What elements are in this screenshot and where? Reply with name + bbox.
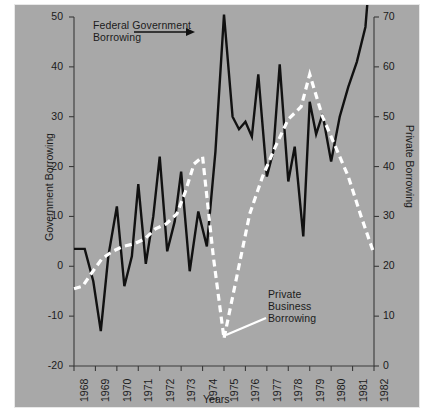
data-series bbox=[74, 5, 374, 339]
y-tick-label-right: 30 bbox=[383, 209, 405, 221]
y-axis-left-title: Government Borrowing bbox=[43, 133, 55, 241]
y-tick-label-left: -10 bbox=[41, 309, 63, 321]
y-tick-label-right: 20 bbox=[383, 259, 405, 271]
y-axis-right-title: Private Borrowing bbox=[404, 125, 416, 208]
private-callout-line bbox=[226, 318, 266, 335]
private-business-annotation: Private Business Borrowing bbox=[268, 288, 316, 324]
y-tick-label-left: 0 bbox=[41, 259, 63, 271]
x-tick-label: 1970 bbox=[121, 379, 133, 402]
y-tick-label-right: 40 bbox=[383, 160, 405, 172]
y-tick-label-right: 0 bbox=[383, 359, 405, 371]
series-federal-government bbox=[74, 5, 374, 331]
y-tick-label-left: 30 bbox=[41, 110, 63, 122]
x-tick-label: 1981 bbox=[357, 379, 369, 402]
y-tick-label-left: 10 bbox=[41, 209, 63, 221]
x-tick-label: 1971 bbox=[142, 379, 154, 402]
y-tick-label-left: 50 bbox=[41, 10, 63, 22]
x-tick-label: 1968 bbox=[78, 379, 90, 402]
chart-plot-area bbox=[15, 5, 421, 409]
x-tick-label: 1982 bbox=[378, 379, 390, 402]
axis-lines bbox=[74, 17, 374, 366]
y-tick-label-right: 70 bbox=[383, 10, 405, 22]
chart-figure: Federal Government Borrowing Private Bus… bbox=[14, 4, 420, 408]
tick-marks bbox=[69, 17, 379, 371]
x-tick-label: 1974 bbox=[207, 379, 219, 402]
y-tick-label-right: 50 bbox=[383, 110, 405, 122]
y-tick-label-right: 10 bbox=[383, 309, 405, 321]
y-tick-label-left: 40 bbox=[41, 60, 63, 72]
axes bbox=[74, 17, 374, 366]
x-tick-label: 1980 bbox=[335, 379, 347, 402]
callout-lines bbox=[134, 28, 266, 335]
x-tick-label: 1978 bbox=[292, 379, 304, 402]
series-private-business bbox=[74, 74, 374, 338]
x-tick-label: 1979 bbox=[314, 379, 326, 402]
federal-government-annotation: Federal Government Borrowing bbox=[93, 19, 191, 43]
x-tick-label: 1972 bbox=[164, 379, 176, 402]
y-tick-label-left: -20 bbox=[41, 359, 63, 371]
y-tick-label-left: 20 bbox=[41, 160, 63, 172]
x-tick-label: 1976 bbox=[249, 379, 261, 402]
x-tick-label: 1969 bbox=[99, 379, 111, 402]
y-tick-label-right: 60 bbox=[383, 60, 405, 72]
x-tick-label: 1977 bbox=[271, 379, 283, 402]
x-tick-label: 1973 bbox=[185, 379, 197, 402]
x-tick-label: 1975 bbox=[228, 379, 240, 402]
